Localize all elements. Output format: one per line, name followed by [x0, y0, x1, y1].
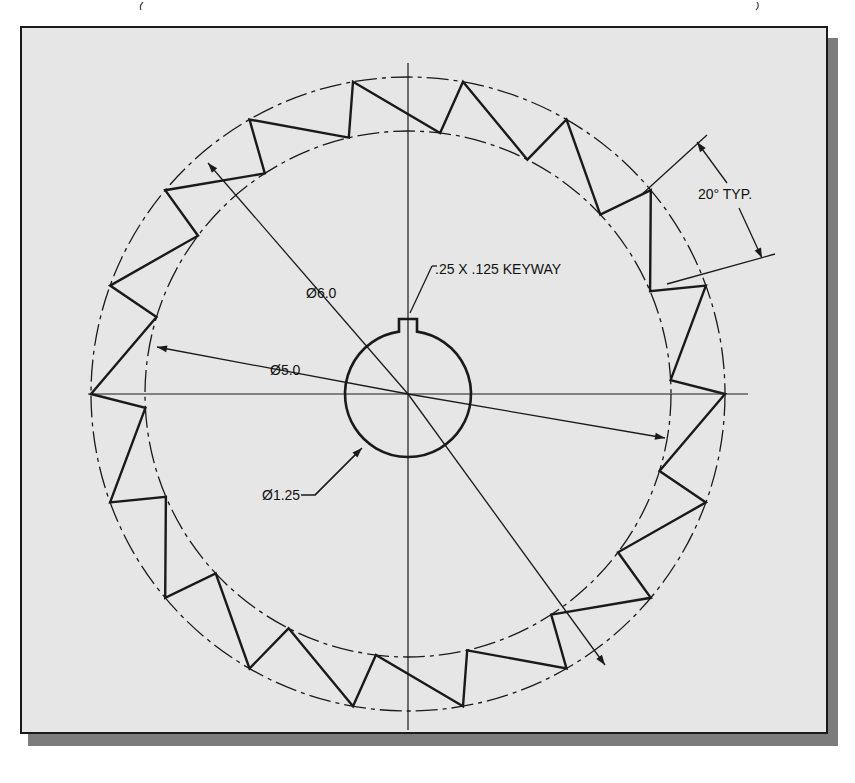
hub-leader: [301, 452, 358, 495]
inner-diameter-arrow-2-arrowhead: [157, 345, 167, 352]
inner-diameter-arrow-1-arrowhead: [655, 433, 665, 440]
gear-drawing: 20° TYP. .25 X .125 KEYWAY Ø6.0 Ø5.0 Ø1.…: [0, 0, 855, 783]
dimensions: [157, 135, 775, 665]
outer-diameter-label: Ø6.0: [306, 285, 337, 301]
hub-diameter-label: Ø1.25: [262, 487, 300, 503]
center-lines: [88, 63, 748, 730]
inner-diameter-arrow-1: [408, 394, 665, 438]
angle-arrow-1-arrowhead: [697, 142, 706, 152]
angle-arrow-2-arrowhead: [755, 247, 762, 258]
keyway-label: .25 X .125 KEYWAY: [435, 261, 562, 277]
angle-extension-1: [640, 135, 707, 196]
angle-extension-2: [667, 254, 775, 284]
outer-diameter-arrow-1-arrowhead: [596, 655, 605, 665]
outer-diameter-arrow-2: [208, 163, 408, 394]
outer-diameter-arrow-1: [408, 394, 605, 665]
inner-diameter-label: Ø5.0: [270, 362, 301, 378]
angle-label: 20° TYP.: [698, 186, 752, 202]
keyway-leader: [410, 266, 432, 313]
